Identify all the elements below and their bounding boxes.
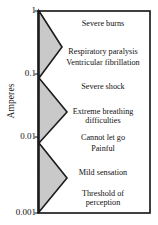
effect-label-cannot-let-go: Cannot let go <box>56 133 150 142</box>
effect-label-respiratory-paralysis: Respiratory paralysis <box>56 47 150 56</box>
effect-label-severe-shock: Severe shock <box>56 82 150 91</box>
effect-label-ventricular-fibrillation: Ventricular fibrillation <box>56 58 150 67</box>
effect-label-mild-sensation: Mild sensation <box>56 168 150 177</box>
effect-label-extreme-breathing-difficulties: Extreme breathing difficulties <box>56 107 150 125</box>
current-effects-chart: Amperes 1 0.1 0.01 0.001 <box>0 0 158 225</box>
effect-label-severe-burns: Severe burns <box>56 19 150 28</box>
effect-label-threshold-of-perception: Threshold of perception <box>56 189 150 207</box>
effect-label-painful: Painful <box>56 144 150 153</box>
effect-labels: Severe burns Respiratory paralysis Ventr… <box>56 11 150 213</box>
